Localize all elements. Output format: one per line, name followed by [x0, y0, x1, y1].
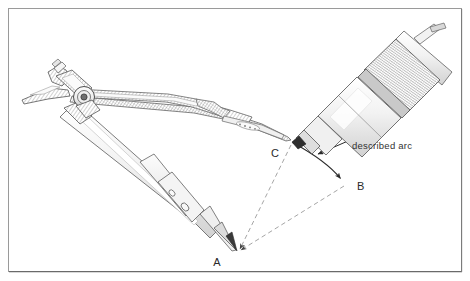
- compass-arc-illustration: A B C described arc: [0, 0, 470, 281]
- point-label-c: C: [271, 147, 279, 159]
- described-arc-callout: described arc: [352, 140, 412, 151]
- figure-root: A B C described arc: [0, 0, 470, 281]
- compass-pivot-screw: [81, 94, 87, 100]
- point-label-b: B: [357, 180, 365, 192]
- point-label-a: A: [213, 256, 221, 268]
